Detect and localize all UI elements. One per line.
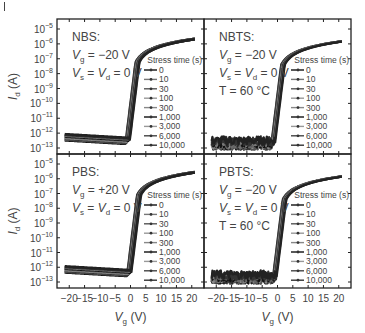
y-tick-label: 10−5 [34, 22, 53, 35]
transfer-curve-figure: 10−510−610−710−810−910−1010−1110−1210−13… [0, 0, 365, 333]
panel-annotation: Vs = Vd = 0 V [219, 66, 289, 82]
y-tick-label: 10−7 [34, 52, 53, 65]
panel-annotation: Vg = −20 V [219, 48, 277, 64]
y-tick-label: 10−5 [34, 157, 53, 170]
y-tick-label: 10−8 [34, 67, 53, 80]
panel-title: PBTS: [219, 165, 254, 179]
panel-title: NBS: [72, 30, 100, 44]
x-tick-label: 10 [156, 293, 168, 304]
y-tick-label: 10−13 [30, 141, 53, 154]
x-tick-label: 15 [171, 293, 183, 304]
x-tick-label: 0 [128, 293, 134, 304]
y-axis-label: Id (A) [6, 207, 22, 234]
y-tick-label: 10−7 [34, 187, 53, 200]
x-tick-label: 20 [186, 293, 198, 304]
panel-annotation: T = 60 °C [219, 84, 270, 98]
y-tick-label: 10−8 [34, 201, 53, 214]
x-axis-label: Vg (V) [262, 310, 294, 326]
y-tick-label: 10−12 [30, 260, 53, 273]
x-tick-label: 15 [318, 293, 330, 304]
x-tick-label: 20 [333, 293, 345, 304]
y-tick-label: 10−13 [30, 275, 53, 288]
x-tick-label: −10 [91, 293, 108, 304]
panel-annotation: T = 60 °C [219, 219, 270, 233]
x-tick-label: −5 [256, 293, 268, 304]
y-tick-label: 10−11 [31, 246, 54, 259]
legend-title: Stress time (s) [294, 190, 349, 200]
legend-title: Stress time (s) [147, 190, 202, 200]
x-tick-label: 0 [275, 293, 281, 304]
y-tick-label: 10−12 [30, 126, 53, 139]
legend-item: 10,000 [306, 140, 332, 150]
legend-title: Stress time (s) [294, 55, 349, 65]
panel-annotation: Vg = +20 V [72, 183, 130, 199]
y-tick-label: 10−10 [30, 96, 53, 109]
panel-title: PBS: [72, 165, 99, 179]
panel-annotation: Vs = Vd = 0 V [72, 201, 142, 217]
x-axis-label: Vg (V) [115, 310, 147, 326]
legend-title: Stress time (s) [147, 55, 202, 65]
x-tick-label: −5 [109, 293, 121, 304]
x-tick-label: 5 [143, 293, 149, 304]
panel-top-left: 10−510−610−710−810−910−1010−1110−1210−13… [6, 19, 204, 154]
panel-annotation: Vg = −20 V [219, 183, 277, 199]
y-tick-label: 10−11 [31, 111, 54, 124]
panel-title: NBTS: [219, 30, 254, 44]
y-tick-label: 10−9 [34, 216, 53, 229]
x-tick-label: 5 [290, 293, 296, 304]
panel-annotation: Vg = −20 V [72, 48, 130, 64]
legend-item: 10,000 [159, 140, 185, 150]
legend-item: 10,000 [306, 275, 332, 285]
panel-annotation: Vs = Vd = 0 V [219, 201, 289, 217]
panel-bottom-left: 10−510−610−710−810−910−1010−1110−1210−13… [6, 154, 204, 326]
x-tick-label: 10 [303, 293, 315, 304]
panel-bottom-right: −20−15−10−505101520Vg (V)PBTS:Vg = −20 V… [204, 154, 351, 326]
legend-item: 10,000 [159, 275, 185, 285]
y-tick-label: 10−9 [34, 82, 53, 95]
panel-annotation: Vs = Vd = 0 V [72, 66, 142, 82]
panel-top-right: NBTS:Vg = −20 VVs = Vd = 0 VT = 60 °CStr… [204, 19, 351, 154]
y-tick-label: 10−6 [34, 37, 53, 50]
y-tick-label: 10−10 [30, 231, 53, 244]
x-tick-label: −10 [238, 293, 255, 304]
y-axis-label: Id (A) [6, 73, 22, 100]
y-tick-label: 10−6 [34, 172, 53, 185]
